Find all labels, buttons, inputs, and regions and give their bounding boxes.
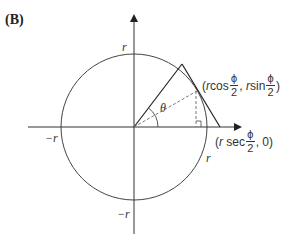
sec-func: sec xyxy=(223,136,245,148)
fraction-numerator: ϕ xyxy=(266,74,275,86)
separator: , xyxy=(239,80,246,92)
cos-func: cos xyxy=(210,80,229,92)
axis-point-label: ( r sec ϕ 2 , 0) xyxy=(215,130,273,154)
phi-over-2-fraction: ϕ 2 xyxy=(230,74,239,98)
coordinate-rest: , 0) xyxy=(256,136,273,148)
label-r-right: r xyxy=(206,152,211,164)
phi-over-2-fraction: ϕ 2 xyxy=(246,130,255,154)
diagram-svg xyxy=(0,0,298,242)
fraction-numerator: ϕ xyxy=(230,74,239,86)
fraction-denominator: 2 xyxy=(268,86,274,98)
fraction-denominator: 2 xyxy=(231,86,237,98)
sin-func: sin xyxy=(250,80,265,92)
fraction-numerator: ϕ xyxy=(246,130,255,142)
label-r-top: r xyxy=(122,41,127,53)
fraction-denominator: 2 xyxy=(247,142,253,154)
label-neg-r-bottom: −r xyxy=(117,208,130,220)
right-angle-mark xyxy=(196,121,201,127)
paren-close: ) xyxy=(276,80,280,92)
diagram-canvas: (B) r −r −r r θ ( r cos ϕ 2 , r sin ϕ 2 … xyxy=(0,0,298,242)
angle-theta-label: θ xyxy=(160,102,166,114)
tangent-point-label: ( r cos ϕ 2 , r sin ϕ 2 ) xyxy=(202,74,280,98)
panel-label: (B) xyxy=(5,12,24,28)
phi-over-2-fraction: ϕ 2 xyxy=(266,74,275,98)
angle-arc xyxy=(149,108,159,127)
hypotenuse-line xyxy=(134,64,182,127)
label-neg-r-left: −r xyxy=(45,132,58,144)
